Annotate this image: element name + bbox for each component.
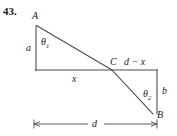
side-label-d-minus-x: d − x bbox=[124, 57, 145, 67]
angle-label-theta1: θ1 bbox=[41, 37, 49, 50]
side-label-a: a bbox=[26, 43, 31, 53]
figure-container: 43. A B C a b bbox=[0, 0, 177, 136]
vertex-label-c: C bbox=[110, 57, 117, 67]
vertex-label-b: B bbox=[157, 110, 163, 120]
dimension-label-d: d bbox=[92, 119, 97, 129]
geometry-diagram-svg bbox=[0, 0, 177, 136]
vertex-label-a: A bbox=[32, 11, 38, 21]
side-label-x: x bbox=[72, 74, 76, 84]
theta1-subscript: 1 bbox=[46, 42, 49, 49]
angle-label-theta2: θ2 bbox=[143, 89, 151, 102]
side-label-b: b bbox=[162, 86, 167, 96]
theta2-subscript: 2 bbox=[148, 94, 151, 101]
